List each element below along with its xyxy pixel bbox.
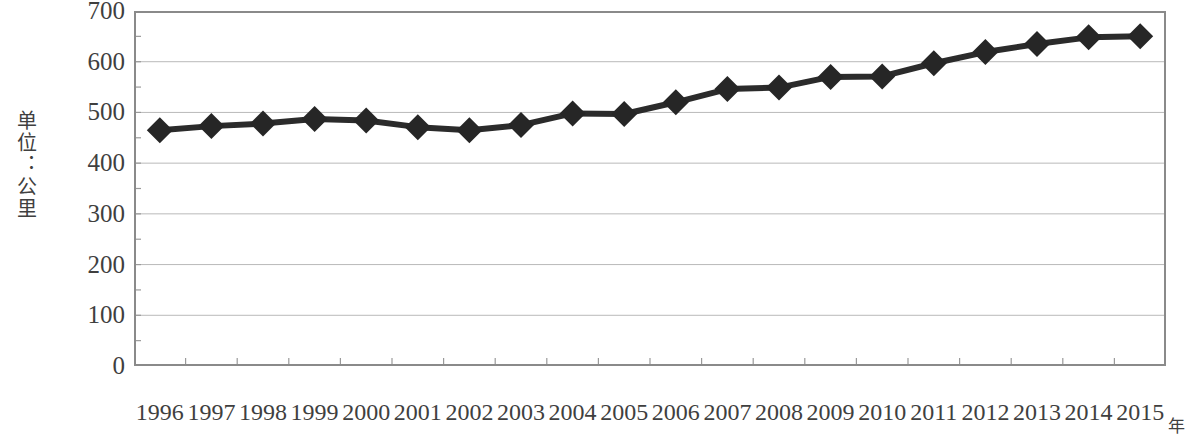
x-axis-tick-label: 2010 [858,398,906,426]
y-axis-tick-label: 400 [61,150,125,175]
y-axis-tick-label: 700 [61,0,125,23]
x-axis-tick-label: 1997 [187,398,235,426]
x-axis-tick-label: 2003 [497,398,545,426]
x-axis-tick-label: 2002 [445,398,493,426]
chart-figure: 单位：公里 0100200300400500600700 19961997199… [0,0,1188,436]
y-axis-tick-label: 0 [61,353,125,378]
x-axis-tick-label: 2007 [703,398,751,426]
x-axis-tick-label: 2001 [394,398,442,426]
y-axis-tick-labels: 0100200300400500600700 [55,0,125,436]
x-axis-tick-labels: 1996199719981999200020012002200320042005… [134,398,1166,432]
y-axis-tick-label: 600 [61,49,125,74]
plot-border [134,11,1166,366]
x-axis-tick-label: 2009 [807,398,855,426]
x-axis-tick-label: 2008 [755,398,803,426]
x-axis-tick-label: 2005 [600,398,648,426]
x-axis-tick-label: 1996 [136,398,184,426]
x-axis-tick-label: 2006 [652,398,700,426]
x-axis-tick-label: 2000 [342,398,390,426]
x-axis-tick-label: 2011 [910,398,957,426]
x-axis-title: 年 [1168,412,1185,436]
y-axis-tick-label: 300 [61,201,125,226]
plot-area [134,11,1166,366]
x-axis-tick-label: 2004 [549,398,597,426]
x-axis-tick-label: 1999 [291,398,339,426]
x-axis-tick-label: 1998 [239,398,287,426]
x-axis-tick-label: 2013 [1013,398,1061,426]
y-axis-title: 单位：公里 [8,110,42,290]
y-axis-tick-label: 200 [61,252,125,277]
y-axis-tick-label: 500 [61,99,125,124]
x-axis-tick-label: 2015 [1116,398,1164,426]
x-axis-tick-label: 2014 [1065,398,1113,426]
y-axis-tick-label: 100 [61,302,125,327]
x-axis-tick-label: 2012 [961,398,1009,426]
